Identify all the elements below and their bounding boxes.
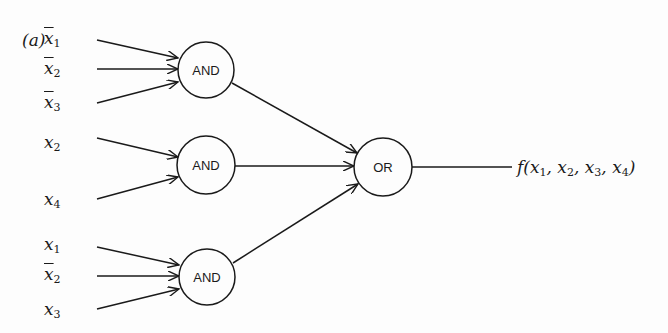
output-function-label: f(x1, x2, x3, x4) [517,157,635,179]
input-label-x4: x4 [44,191,61,210]
input-label-x2: x2 [44,134,61,153]
input-label-x3: x3 [44,301,61,320]
and-gate-2-label: AND [192,158,219,173]
and-gate-1-label: AND [192,63,219,78]
and-gate-3-label: AND [193,270,220,285]
input-label-x3bar: x3 [44,94,61,113]
wire-and1-or [232,83,357,153]
input-label-x2bar: x2 [44,60,61,79]
wire-x1bar-and1 [97,40,178,58]
panel-label: (a) [22,32,45,49]
logic-diagram: AND AND AND OR (a) x1 x2 x3 x2 x4 x1 x2 … [0,0,668,333]
wire-and3-or [233,184,358,263]
input-label-x2bar-b: x2 [44,266,61,285]
wire-x1-and3 [97,247,179,265]
wire-x4-and2 [97,177,178,199]
input-label-x1: x1 [44,236,61,255]
or-gate-label: OR [373,160,393,175]
wire-x3bar-and1 [97,82,178,103]
wire-x3-and3 [97,289,179,309]
input-label-x1bar: x1 [44,30,61,49]
wire-x2-and2 [97,138,178,157]
